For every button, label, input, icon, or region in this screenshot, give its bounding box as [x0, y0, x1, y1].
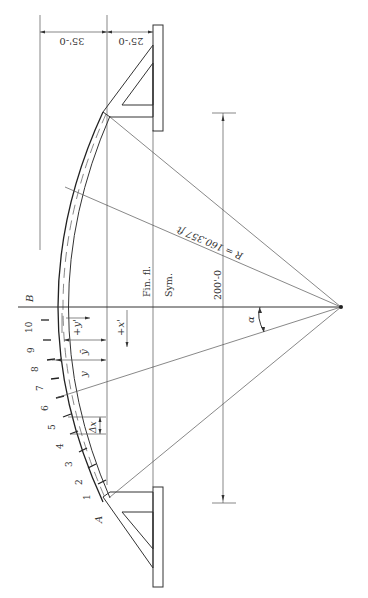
radial-line-bottom	[110, 307, 341, 497]
delta-x-label: Δx	[88, 421, 98, 434]
y-prime-label: +y'	[71, 319, 82, 336]
dim-35ft-label: 35'-0	[59, 36, 84, 47]
x-prime-label: +x'	[115, 319, 126, 336]
arrow-icon	[222, 115, 225, 121]
alpha-label: α	[245, 316, 256, 323]
svg-text:8: 8	[30, 366, 40, 372]
svg-text:6: 6	[40, 405, 50, 411]
arrow-icon	[40, 31, 45, 34]
svg-text:5: 5	[47, 424, 57, 430]
arrow-icon	[148, 31, 153, 34]
arrow-icon	[222, 495, 225, 501]
svg-text:4: 4	[55, 443, 65, 449]
y-label: y	[78, 371, 89, 378]
symmetry-label: Sym.	[163, 273, 174, 297]
dim-25ft-label: 25'-0	[118, 36, 143, 47]
y-bar-label: ȳ	[78, 349, 89, 356]
fin-floor-label: Fin. fl.	[141, 266, 152, 297]
span-label: 200'-0	[212, 270, 223, 300]
svg-text:2: 2	[74, 479, 84, 485]
crown-label-B: B	[24, 295, 35, 303]
svg-text:9: 9	[26, 347, 36, 353]
arrow-icon	[102, 31, 107, 34]
springing-label-A: A	[93, 516, 104, 524]
svg-text:7: 7	[35, 385, 45, 391]
segment-labels: 1 2 3 4 5 6 7 8 9 10	[24, 321, 92, 500]
arch-diagram: 35'-0 25'-0 1 2 3 4 5 6 7 8 9	[0, 0, 368, 598]
svg-text:3: 3	[64, 461, 74, 467]
center-point	[339, 305, 343, 309]
svg-text:10: 10	[24, 321, 34, 333]
radial-line-alpha	[56, 307, 341, 398]
arrow-icon	[107, 31, 112, 34]
radius-label: R = 160.357 ft	[175, 224, 246, 262]
bottom-support	[103, 487, 163, 587]
svg-text:1: 1	[82, 494, 92, 500]
